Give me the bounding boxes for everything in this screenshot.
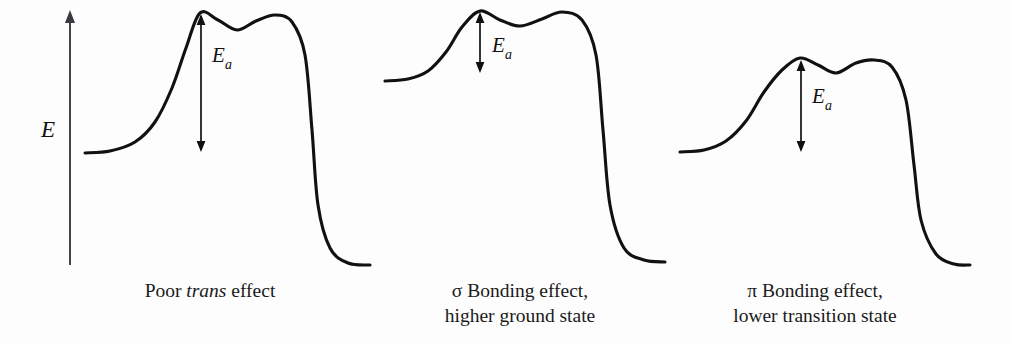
energy-curve-poor-trans [85,12,370,265]
ea-arrowhead-down [476,62,485,73]
energy-axis-arrowhead [65,10,75,23]
ea-label: E [211,43,225,67]
ea-annotation-1: E a [197,14,232,152]
ea-label-subscript: a [505,47,512,62]
panel-1-group: E a [85,12,370,265]
ea-label: E [491,33,505,57]
energy-axis-label: E [40,117,55,142]
ea-annotation-3: E a [797,60,832,152]
panel-1-caption: Poor trans effect [60,278,360,303]
caption-line: π Bonding effect, [660,278,970,303]
ea-arrowhead-down [197,141,206,152]
energy-curve-sigma-bonding [385,11,665,262]
ea-arrowhead-down [797,141,806,152]
caption-line: higher ground state [370,303,670,328]
panel-3-group: E a [680,58,970,265]
ea-label-subscript: a [225,57,232,72]
caption-text: effect [226,280,275,301]
panel-2-group: E a [385,11,665,262]
energy-profile-figure: E E a E a [0,0,1012,345]
energy-curve-pi-bonding [680,58,970,265]
ea-arrowhead-up [797,60,806,71]
caption-line: lower transition state [660,303,970,328]
ea-label-subscript: a [825,98,832,113]
caption-text: Poor [145,280,187,301]
panel-2-caption: σ Bonding effect,higher ground state [370,278,670,328]
energy-axis: E [40,10,75,265]
caption-italic-term: trans [186,280,226,301]
caption-line: σ Bonding effect, [370,278,670,303]
ea-label: E [811,84,825,108]
panel-3-caption: π Bonding effect,lower transition state [660,278,970,328]
caption-line: Poor trans effect [60,278,360,303]
